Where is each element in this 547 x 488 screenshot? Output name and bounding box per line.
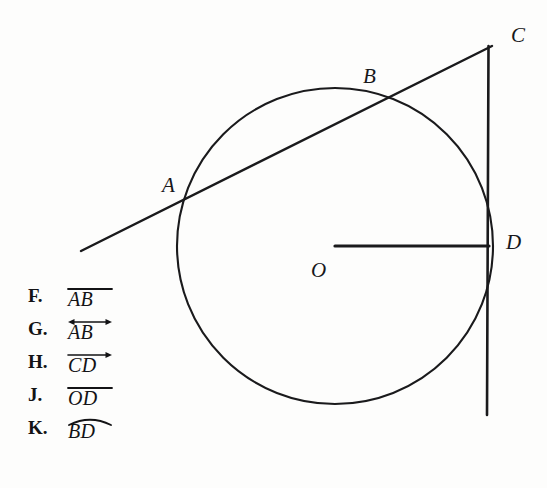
point-label-D: D: [506, 232, 521, 253]
answer-choice-list: F. AB G. AB H.: [28, 283, 218, 448]
point-label-O: O: [311, 260, 326, 281]
answer-choice-F[interactable]: F. AB: [28, 283, 218, 316]
right-arrow-icon: [67, 350, 113, 361]
answer-choice-G[interactable]: G. AB: [28, 316, 218, 349]
overbar-icon: [67, 284, 113, 295]
secant-line-ABC: [81, 46, 492, 251]
choice-expression-K: BD: [68, 415, 95, 444]
double-arrow-icon: [67, 317, 113, 328]
point-label-A: A: [162, 175, 175, 196]
answer-choice-J[interactable]: J. OD: [28, 382, 218, 415]
arc-icon: [67, 416, 113, 427]
tangent-line-CD: [487, 46, 489, 415]
choice-expression-F: AB: [68, 283, 93, 312]
choice-letter-K: K.: [28, 415, 68, 441]
choice-letter-F: F.: [28, 283, 68, 309]
point-label-B: B: [363, 66, 376, 87]
choice-expression-G: AB: [68, 316, 93, 345]
choice-expression-H: CD: [68, 349, 97, 378]
answer-choice-K[interactable]: K. BD: [28, 415, 218, 448]
worksheet-page: A B C D O F. AB G. AB: [0, 0, 547, 488]
answer-choice-H[interactable]: H. CD: [28, 349, 218, 382]
choice-expression-J: OD: [68, 382, 98, 411]
point-label-C: C: [511, 25, 525, 46]
overbar-icon: [67, 383, 113, 394]
choice-letter-G: G.: [28, 316, 68, 342]
choice-letter-J: J.: [28, 382, 68, 408]
choice-letter-H: H.: [28, 349, 68, 375]
